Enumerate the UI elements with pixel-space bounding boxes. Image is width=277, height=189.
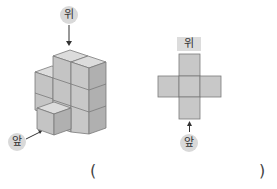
answer-blank[interactable] xyxy=(100,162,258,180)
cube-stack-diagram xyxy=(0,0,140,189)
answer-open-paren: ( xyxy=(90,161,96,180)
top-label-right: 위 xyxy=(177,37,201,51)
down-arrow-icon xyxy=(66,25,72,46)
front-label-left: 앞 xyxy=(8,133,26,151)
answer-close-paren: ) xyxy=(259,161,265,180)
front-arrow-icon xyxy=(26,130,42,139)
up-arrow-icon xyxy=(187,121,192,132)
front-label-right: 앞 xyxy=(180,134,198,152)
top-view-diagram xyxy=(150,50,230,140)
